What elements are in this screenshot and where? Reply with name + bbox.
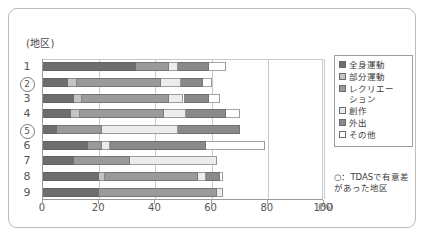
bar-segment <box>43 141 88 150</box>
legend-item-label: 全身運動 <box>349 60 385 70</box>
y-axis-tick-label: 4 <box>14 108 40 119</box>
legend-swatch-icon <box>339 119 346 126</box>
x-axis-tick-mark <box>154 200 155 204</box>
bar-segment <box>198 172 206 181</box>
bar-segment <box>217 188 223 197</box>
footnote: ○：TDASで有意差があった地区 <box>334 172 418 194</box>
y-axis-tick-label: 6 <box>14 140 40 151</box>
chart-card: (地区) 123456789 020406080100 (%) 全身運動部分運動… <box>8 8 416 228</box>
bar-segment <box>102 125 178 134</box>
bar-row <box>43 94 323 103</box>
bar-segment <box>43 62 136 71</box>
bar-segment <box>206 172 220 181</box>
x-axis-tick-mark <box>211 200 212 204</box>
bar-segment <box>136 62 170 71</box>
legend-swatch-icon <box>339 131 346 138</box>
legend-swatch-icon <box>339 85 346 92</box>
bar-segment <box>57 125 102 134</box>
y-axis-title: (地区) <box>26 35 55 50</box>
bar-segment <box>203 78 211 87</box>
bar-row <box>43 125 323 134</box>
bar-row <box>43 156 323 165</box>
y-axis-tick-label: 8 <box>14 171 40 182</box>
bar-segment <box>102 141 110 150</box>
legend-item[interactable]: 部分運動 <box>339 72 409 82</box>
y-axis-tick-label: 1 <box>14 61 40 72</box>
bar-row <box>43 172 323 181</box>
bar-segment <box>99 188 217 197</box>
bar-segment <box>43 172 99 181</box>
bar-segment <box>178 62 209 71</box>
bar-segment <box>209 62 226 71</box>
bar-segment <box>226 109 240 118</box>
y-axis-tick-label: 3 <box>14 93 40 104</box>
bar-row <box>43 78 323 87</box>
bar-segment <box>178 125 240 134</box>
bar-segment <box>110 141 206 150</box>
bar-segment <box>169 94 183 103</box>
bar-segment <box>77 78 161 87</box>
bar-row <box>43 141 323 150</box>
legend-item[interactable]: 外出 <box>339 118 409 128</box>
bar-segment <box>43 125 57 134</box>
bar-segment <box>169 62 177 71</box>
y-axis-tick-label: 9 <box>14 187 40 198</box>
legend-item[interactable]: 全身運動 <box>339 60 409 70</box>
bar-segment <box>74 156 130 165</box>
legend-swatch-icon <box>339 61 346 68</box>
bar-segment <box>43 78 68 87</box>
bar-segment <box>209 94 220 103</box>
bar-segment <box>43 109 71 118</box>
plot-area <box>42 59 323 200</box>
legend-item[interactable]: 創作 <box>339 106 409 116</box>
bar-segment <box>161 78 181 87</box>
bar-segment <box>43 94 74 103</box>
legend-item-label: その他 <box>349 130 376 140</box>
bar-row <box>43 109 323 118</box>
bar-row <box>43 188 323 197</box>
x-axis-tick-mark <box>42 200 43 204</box>
bar-segment <box>164 109 186 118</box>
legend-swatch-icon <box>339 107 346 114</box>
y-axis-tick-label: 2 <box>14 77 40 92</box>
bar-segment <box>82 94 169 103</box>
y-axis-tick-label: 7 <box>14 155 40 166</box>
legend-swatch-icon <box>339 73 346 80</box>
bar-row <box>43 62 323 71</box>
bar-segment <box>43 188 99 197</box>
y-axis-tick-label: 5 <box>14 124 40 139</box>
bar-segment <box>181 78 203 87</box>
legend: 全身運動部分運動レクリエー ション創作外出その他 <box>334 55 413 147</box>
x-axis-tick-mark <box>267 200 268 204</box>
x-axis-unit-label: (%) <box>318 202 334 212</box>
bar-segment <box>43 156 74 165</box>
legend-item-label: レクリエー ション <box>349 84 394 104</box>
bar-segment <box>206 141 265 150</box>
bar-segment <box>130 156 217 165</box>
plot-top-border <box>43 59 323 60</box>
x-axis-tick-mark <box>98 200 99 204</box>
bar-segment <box>105 172 198 181</box>
gridline <box>324 59 325 199</box>
legend-item[interactable]: その他 <box>339 130 409 140</box>
bar-segment <box>71 109 79 118</box>
bar-segment <box>220 172 223 181</box>
bar-segment <box>184 94 209 103</box>
legend-item-label: 創作 <box>349 106 367 116</box>
bar-segment <box>74 94 82 103</box>
bar-segment <box>68 78 76 87</box>
bar-segment <box>186 109 225 118</box>
bar-segment <box>88 141 102 150</box>
legend-item-label: 部分運動 <box>349 72 385 82</box>
bar-segment <box>80 109 164 118</box>
legend-item[interactable]: レクリエー ション <box>339 84 409 104</box>
legend-item-label: 外出 <box>349 118 367 128</box>
